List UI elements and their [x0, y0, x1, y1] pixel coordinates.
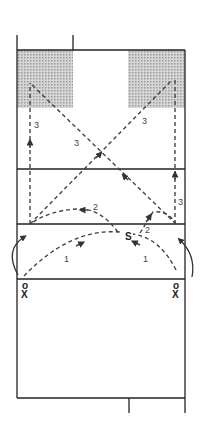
label-3-right-vertical: 3	[178, 197, 183, 207]
rotate-arrow-left	[12, 237, 24, 275]
player-left-x: X	[21, 289, 28, 300]
setter-label: S	[125, 231, 132, 242]
label-3-left-diagonal: 3	[74, 138, 79, 148]
arrow-3-diagonal-to-right	[96, 154, 100, 158]
rotate-arrow-right	[180, 240, 193, 277]
path-1-right	[133, 234, 176, 270]
drill-diagram: 1 1 2 2 3 3 3 3 S o X o X	[0, 0, 206, 430]
path-1-left	[24, 232, 120, 276]
label-3-right-diagonal: 3	[142, 116, 147, 126]
arrow-1-left	[76, 243, 82, 246]
label-1-left: 1	[64, 254, 69, 264]
label-3-left-vertical: 3	[34, 120, 39, 130]
left-target-zone	[17, 50, 73, 108]
label-2-left: 2	[93, 202, 98, 212]
label-2-right: 2	[145, 225, 150, 235]
label-1-right: 1	[143, 254, 148, 264]
path-2-left	[30, 209, 118, 232]
right-target-zone	[128, 50, 185, 108]
arrow-1-right	[134, 242, 140, 245]
player-right-x: X	[172, 289, 179, 300]
